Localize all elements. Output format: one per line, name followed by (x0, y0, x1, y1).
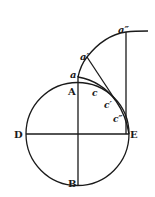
label-a-double-prime: a″ (118, 24, 129, 35)
geometry-diagram: A B D E a a′ a″ c c′ c″ (0, 0, 155, 197)
label-c-double-prime: c″ (113, 114, 123, 124)
label-D: D (14, 129, 23, 140)
label-E: E (130, 129, 138, 140)
label-c: c (92, 88, 98, 98)
label-B: B (68, 178, 76, 189)
label-c-prime: c′ (104, 100, 112, 110)
label-a: a (70, 69, 76, 80)
label-a-prime: a′ (80, 51, 89, 62)
label-A: A (67, 86, 76, 97)
